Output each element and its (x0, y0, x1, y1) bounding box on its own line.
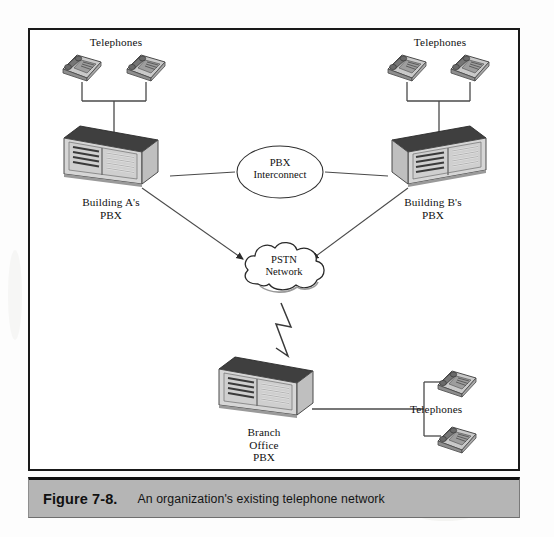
figure-page: Telephones (0, 0, 554, 537)
telephones-bottom-right-label: Telephones (410, 403, 502, 416)
telephone-icon (435, 422, 479, 454)
pbx-branch-label: Branch Office PBX (210, 426, 318, 464)
telephones-top-right-label: Telephones (394, 36, 486, 49)
telephone-icon (124, 50, 168, 82)
pbx-interconnect-node: PBX Interconnect (235, 144, 325, 200)
pstn-line-1: PSTN (271, 254, 297, 265)
pstn-line-2: Network (265, 266, 302, 277)
pbx-cabinet-branch-office (213, 355, 317, 421)
interconnect-line-2: Interconnect (254, 169, 307, 180)
interconnect-line-1: PBX (270, 157, 291, 168)
pstn-cloud-node: PSTN Network (238, 238, 330, 298)
figure-caption-bar: Figure 7-8. An organization's existing t… (28, 477, 520, 518)
scan-artifact (8, 250, 22, 340)
pbx-a-label: Building A's PBX (56, 196, 166, 221)
figure-caption-text: An organization's existing telephone net… (137, 492, 384, 506)
figure-number: Figure 7-8. (43, 491, 117, 507)
pbx-b-label: Building B's PBX (378, 196, 488, 221)
pstn-label: PSTN Network (238, 254, 330, 279)
telephone-icon (385, 50, 429, 82)
pbx-cabinet-building-a (58, 124, 162, 190)
telephone-icon (448, 50, 492, 82)
pbx-interconnect-label: PBX Interconnect (235, 157, 325, 182)
pbx-cabinet-building-b (388, 124, 492, 190)
telephone-icon (60, 50, 104, 82)
telephone-icon (435, 366, 479, 398)
telephones-top-left-label: Telephones (70, 36, 162, 49)
